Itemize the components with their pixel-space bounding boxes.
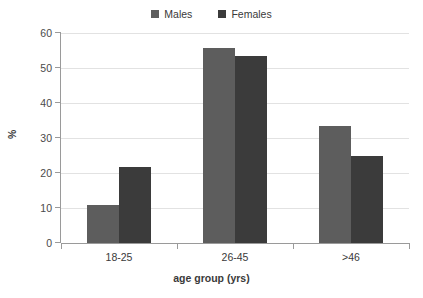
chart-legend: Males Females <box>0 9 423 20</box>
bar-group-26-45 <box>177 33 293 243</box>
bar-chart: Males Females 60 50 40 30 20 10 0 % <box>0 0 423 298</box>
bar-males-26-45 <box>203 48 235 242</box>
y-axis-tick-labels: 60 50 40 30 20 10 0 <box>0 0 52 298</box>
y-tick-40 <box>55 102 60 103</box>
x-tick-end <box>409 243 410 249</box>
bar-group-18-25 <box>61 33 177 243</box>
y-tick-10 <box>55 207 60 208</box>
y-tick-label-20: 20 <box>6 167 52 178</box>
legend-item-females: Females <box>218 9 271 20</box>
bar-females-46plus <box>351 156 383 242</box>
x-tick-1 <box>177 243 178 249</box>
bar-females-18-25 <box>119 167 151 243</box>
legend-item-males: Males <box>151 9 192 20</box>
y-tick-20 <box>55 172 60 173</box>
y-tick-60 <box>55 32 60 33</box>
y-axis-title: % <box>7 130 18 139</box>
x-axis-title: age group (yrs) <box>0 273 423 284</box>
y-tick-label-60: 60 <box>6 27 52 38</box>
x-axis-tick-labels: 18-25 26-45 >46 <box>61 252 409 263</box>
bar-group-46plus <box>293 33 409 243</box>
x-axis-line <box>61 243 409 244</box>
legend-swatch-males <box>151 10 159 18</box>
y-tick-label-10: 10 <box>6 202 52 213</box>
y-tick-50 <box>55 67 60 68</box>
y-tick-label-50: 50 <box>6 62 52 73</box>
legend-label-females: Females <box>231 9 271 20</box>
x-tick-label-46plus: >46 <box>293 252 409 263</box>
x-tick-label-26-45: 26-45 <box>177 252 293 263</box>
bar-males-18-25 <box>87 205 119 242</box>
y-tick-30 <box>55 137 60 138</box>
y-tick-label-0: 0 <box>6 237 52 248</box>
bars-container <box>61 33 409 243</box>
legend-swatch-females <box>218 10 226 18</box>
x-tick-2 <box>293 243 294 249</box>
bar-males-46plus <box>319 126 351 243</box>
legend-label-males: Males <box>164 9 192 20</box>
x-tick-label-18-25: 18-25 <box>61 252 177 263</box>
y-tick-0 <box>55 242 60 243</box>
bar-females-26-45 <box>235 56 267 243</box>
y-tick-label-40: 40 <box>6 97 52 108</box>
x-tick-start <box>61 243 62 249</box>
